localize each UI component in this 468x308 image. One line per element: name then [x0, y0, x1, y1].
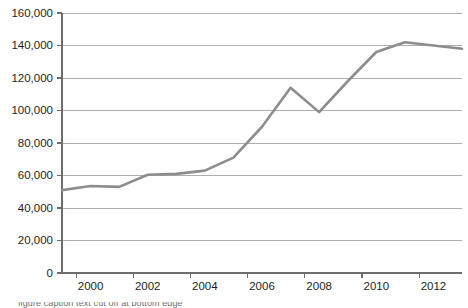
y-axis-tick-label: 60,000: [18, 169, 53, 181]
y-axis-tick-label: 160,000: [11, 7, 53, 19]
x-axis-tick-label: 2000: [78, 280, 104, 292]
x-axis-tick-label: 2006: [249, 280, 275, 292]
y-axis-tick-label: 20,000: [18, 234, 53, 246]
x-axis-tick-label: 2008: [306, 280, 332, 292]
y-axis-tick-label: 0: [47, 267, 53, 279]
y-axis-tick-label: 120,000: [11, 72, 53, 84]
y-axis-tick-label: 140,000: [11, 39, 53, 51]
line-chart: 160,000140,000120,000100,00080,00060,000…: [0, 0, 468, 308]
y-axis-tick-label: 100,000: [11, 104, 53, 116]
x-axis-tick-label: 2010: [363, 280, 389, 292]
y-axis-tick-label: 40,000: [18, 202, 53, 214]
y-axis-tick-labels: 160,000140,000120,000100,00080,00060,000…: [11, 7, 53, 279]
figure-caption-text: figure caption text cut off at bottom ed…: [0, 302, 468, 308]
x-axis-tick-label: 2004: [192, 280, 218, 292]
x-axis-tick-label: 2002: [135, 280, 161, 292]
x-axis-tick-marks: [76, 273, 419, 278]
figure-caption-clipped: figure caption text cut off at bottom ed…: [0, 302, 468, 308]
series-line: [62, 42, 462, 190]
x-axis-tick-label: 2012: [421, 280, 447, 292]
data-series: [62, 42, 462, 190]
y-axis-tick-marks: [57, 13, 62, 273]
chart-container: 160,000140,000120,000100,00080,00060,000…: [0, 0, 468, 308]
x-axis-tick-labels: 2000200220042006200820102012: [78, 280, 446, 292]
y-axis-tick-label: 80,000: [18, 137, 53, 149]
